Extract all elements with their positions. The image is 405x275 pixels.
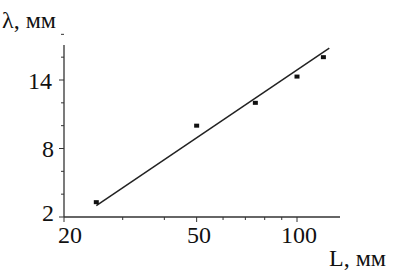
chart: λ, мм 14 8 2 20 50 100 L, мм (0, 0, 405, 275)
y-tick-14: 14 (28, 69, 52, 93)
y-tick-8: 8 (42, 137, 54, 161)
data-point (94, 200, 99, 204)
data-point (253, 101, 258, 105)
y-axis-label: λ, мм (2, 8, 56, 32)
x-tick-20: 20 (58, 223, 82, 247)
data-point (194, 124, 199, 128)
y-tick-2: 2 (42, 201, 54, 225)
x-axis-label: L, мм (329, 246, 386, 270)
data-point (321, 55, 326, 59)
x-tick-50: 50 (187, 223, 211, 247)
fit-line (96, 48, 329, 206)
x-tick-100: 100 (281, 223, 317, 247)
data-point (295, 75, 300, 79)
